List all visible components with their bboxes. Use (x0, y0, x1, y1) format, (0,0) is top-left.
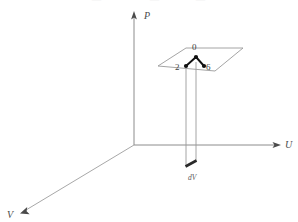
axis-v-line (26, 145, 134, 210)
axis-v-label: V (7, 209, 15, 220)
axis-u: U (134, 139, 293, 150)
axis-p: P (131, 10, 150, 145)
axis-v: V (7, 145, 134, 220)
tree-node-left-label: 2 (175, 62, 180, 72)
volume-element-base (186, 161, 197, 167)
tree-node-root-label: 0 (192, 42, 197, 52)
plane-outline (158, 48, 243, 71)
figure-container: — — — P U V (0, 0, 298, 222)
axis-group: P U V (7, 10, 293, 220)
tree-node-left (184, 64, 188, 68)
volume-element-label: dV (188, 173, 198, 182)
axis-p-label: P (143, 10, 150, 21)
horizontal-slice-plane (158, 48, 243, 71)
three-dimensional-diagram: P U V dV (0, 0, 298, 222)
tree-node-root (194, 55, 198, 59)
axis-u-label: U (285, 139, 293, 150)
vertical-prism-column: dV (186, 62, 198, 182)
binary-tree-graph: 0 2 6 (175, 42, 211, 72)
tree-node-right-label: 6 (206, 62, 211, 72)
